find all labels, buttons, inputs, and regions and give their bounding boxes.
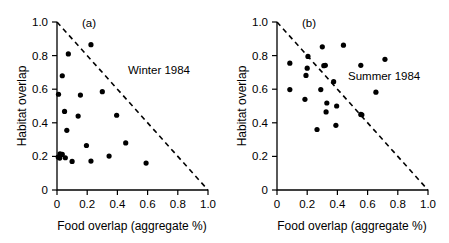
x-tick-label: 0.4: [329, 198, 346, 210]
figure-container: 0 0.2 0.4 0.6 0.8 1.0 0 0.2 0.4 0.6 0.8 …: [0, 0, 449, 243]
y-tick-label: 0.6: [32, 83, 48, 95]
data-point: [303, 73, 308, 78]
y-tick-label: 0.6: [252, 83, 268, 95]
data-point: [287, 61, 292, 66]
y-axis-ticks: [52, 22, 57, 190]
x-tick-label: 0.2: [79, 198, 95, 210]
data-point: [331, 79, 336, 84]
panel-b-x-tick-labels: 0 0.2 0.4 0.6 0.8 1.0: [274, 198, 436, 210]
chart-panel-b: 0 0.2 0.4 0.6 0.8 1.0 0 0.2 0.4 0.6 0.8 …: [222, 0, 446, 243]
x-tick-label: 0.2: [299, 198, 315, 210]
data-point: [64, 128, 69, 133]
series-annotation-winter: Winter 1984: [128, 64, 191, 76]
data-point: [324, 100, 329, 105]
panel-tag-a: (a): [82, 17, 96, 29]
panel-b-y-tick-labels: 0 0.2 0.4 0.6 0.8 1.0: [252, 16, 269, 196]
scatter-points-group-a: [56, 42, 149, 166]
x-tick-label: 1.0: [420, 198, 436, 210]
x-tick-label: 0.8: [170, 198, 186, 210]
data-point: [302, 97, 307, 102]
data-point: [84, 143, 89, 148]
y-tick-label: 0.4: [32, 117, 49, 129]
data-point: [341, 43, 346, 48]
data-point: [62, 109, 67, 114]
y-axis-ticks: [272, 22, 277, 190]
data-point: [323, 109, 328, 114]
data-point: [100, 89, 105, 94]
chart-panel-a: 0 0.2 0.4 0.6 0.8 1.0 0 0.2 0.4 0.6 0.8 …: [0, 0, 224, 243]
scatter-points-group-b: [287, 43, 387, 133]
y-tick-label: 0.2: [32, 150, 48, 162]
data-point: [143, 161, 148, 166]
x-tick-label: 0.4: [109, 198, 126, 210]
data-point: [287, 87, 292, 92]
data-point: [305, 54, 310, 59]
y-tick-label: 0: [262, 184, 268, 196]
panel-a-svg: 0 0.2 0.4 0.6 0.8 1.0 0 0.2 0.4 0.6 0.8 …: [0, 0, 224, 243]
data-point: [359, 112, 364, 117]
x-tick-label: 0.6: [140, 198, 156, 210]
data-point: [60, 73, 65, 78]
series-annotation-summer: Summer 1984: [348, 70, 421, 82]
panel-a-axes: [52, 22, 208, 195]
data-point: [318, 87, 323, 92]
y-tick-label: 0.2: [252, 150, 268, 162]
x-axis-ticks: [277, 190, 428, 195]
x-tick-label: 0: [54, 198, 60, 210]
y-tick-label: 1.0: [252, 16, 268, 28]
x-axis-ticks: [57, 190, 208, 195]
data-point: [63, 155, 68, 160]
panel-a-x-tick-labels: 0 0.2 0.4 0.6 0.8 1.0: [54, 198, 216, 210]
panel-b-axes: [272, 22, 428, 195]
y-tick-label: 0.4: [252, 117, 269, 129]
y-tick-label: 1.0: [32, 16, 48, 28]
data-point: [70, 159, 75, 164]
data-point: [66, 51, 71, 56]
data-point: [57, 155, 62, 160]
data-point: [333, 123, 338, 128]
y-tick-label: 0.8: [252, 50, 268, 62]
data-point: [382, 57, 387, 62]
y-tick-label: 0: [42, 184, 48, 196]
data-point: [323, 63, 328, 68]
data-point: [123, 140, 128, 145]
data-point: [106, 153, 111, 158]
x-tick-label: 0.8: [390, 198, 406, 210]
data-point: [358, 63, 363, 68]
data-point: [56, 92, 61, 97]
data-point: [88, 159, 93, 164]
constraint-line: [57, 22, 208, 190]
data-point: [88, 42, 93, 47]
data-point: [305, 66, 310, 71]
data-point: [320, 44, 325, 49]
constraint-line: [277, 22, 428, 190]
data-point: [314, 127, 319, 132]
data-point: [76, 113, 81, 118]
x-axis-title: Food overlap (aggregate %): [277, 219, 426, 233]
panel-tag-b: (b): [302, 17, 316, 29]
x-tick-label: 1.0: [200, 198, 216, 210]
x-tick-label: 0.6: [360, 198, 376, 210]
y-axis-title: Habitat overlap: [235, 65, 249, 146]
x-axis-title: Food overlap (aggregate %): [57, 219, 206, 233]
panel-b-svg: 0 0.2 0.4 0.6 0.8 1.0 0 0.2 0.4 0.6 0.8 …: [222, 0, 446, 243]
data-point: [78, 92, 83, 97]
y-tick-label: 0.8: [32, 50, 48, 62]
data-point: [373, 90, 378, 95]
x-tick-label: 0: [274, 198, 280, 210]
data-point: [334, 103, 339, 108]
y-axis-title: Habitat overlap: [15, 65, 29, 146]
panel-a-y-tick-labels: 0 0.2 0.4 0.6 0.8 1.0: [32, 16, 49, 196]
data-point: [114, 113, 119, 118]
